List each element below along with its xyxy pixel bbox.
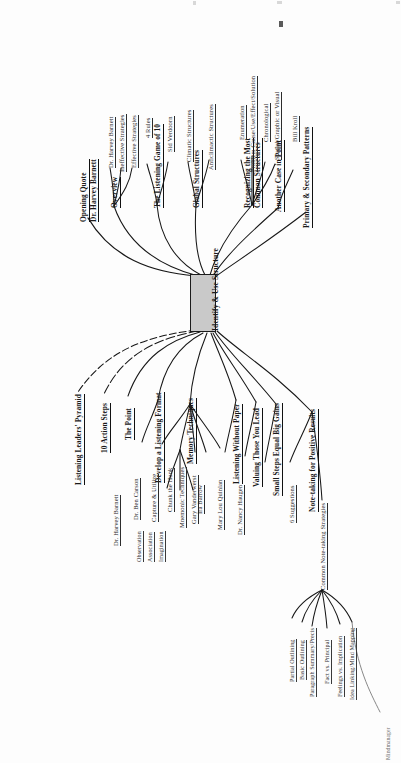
child-global-anticlimactic-structures[interactable]: Anticlimactic Structures: [207, 104, 216, 170]
branch-listening-leaders-pyramid[interactable]: Listening Leaders' Pyramid: [74, 394, 85, 485]
root-node-label: Identify & Use Structure: [211, 275, 220, 331]
child-memory-chunk-the-hunk[interactable]: Chunk the Hunk: [166, 468, 175, 512]
child-listening-game-sid-verdoorn[interactable]: Sid Verdoorn: [166, 116, 175, 152]
branch-note-taking-positive-results[interactable]: Note-taking for Positive Results: [308, 409, 319, 512]
child-develop-format-harvey-barnett[interactable]: Dr. Harvey Barnett: [112, 495, 121, 546]
child-listening-without-paper-ira-barrow[interactable]: Ira Barrow: [196, 485, 205, 514]
scan-artifact: [277, 1, 282, 4]
child-small-steps-nancy-haugen[interactable]: Dr. Nancy Haugen: [236, 485, 245, 535]
child-strategy-partial-outlining[interactable]: Partial Outlining: [289, 640, 297, 683]
child-strategy-feelings-vs-implication[interactable]: Feelings vs. Implication: [337, 636, 345, 697]
branch-primary-secondary-patterns[interactable]: Primary & Secondary Patterns: [302, 127, 313, 228]
child-strategy-idea-linking-mind-mapping[interactable]: Idea Linking/Mind Mapping: [349, 628, 357, 700]
branch-memory-techniques[interactable]: Memory Techniques: [186, 398, 197, 464]
mindmanager-brand-label: Mindmanager: [385, 728, 391, 760]
root-node[interactable]: Identify & Use Structure: [190, 274, 216, 332]
child-capture-observation[interactable]: Observation: [136, 531, 144, 562]
branch-develop-listening-format[interactable]: Develop a Listening Format: [154, 392, 165, 483]
child-strategy-fact-vs-principal[interactable]: Fact vs. Principal: [324, 640, 332, 684]
child-recognizing-chronological[interactable]: Chronological: [262, 104, 271, 143]
child-recognizing-problem-cause[interactable]: Problem Cause/Use/Effect/Solution: [249, 76, 258, 172]
child-global-climatic-structures[interactable]: Climatic Structures: [185, 110, 194, 162]
branch-listening-without-paper[interactable]: Listening Without Paper: [232, 404, 243, 484]
branch-listening-game[interactable]: The Listening Game of 10: [153, 124, 164, 208]
root-label-line1: Identify &: [211, 296, 220, 331]
branch-small-steps-big-gains[interactable]: Small Steps Equal Big Gains: [272, 403, 283, 496]
child-strategy-basic-outlining[interactable]: Basic Outlining: [299, 640, 307, 680]
scan-artifact: [193, 1, 196, 5]
root-label-line2: Use Structure: [211, 248, 220, 294]
child-recognizing-enumeration[interactable]: Enumeration: [238, 105, 247, 140]
child-memory-ben-carson[interactable]: Dr. Ben Carson: [132, 478, 141, 520]
child-note-taking-6-suggestions[interactable]: 6 Suggestions: [288, 485, 297, 523]
child-memory-capture-utilize[interactable]: Capture & Utilize: [150, 474, 159, 522]
mindmap-canvas: Identify & Use Structure Opening Quote D…: [0, 0, 401, 763]
branch-the-point[interactable]: The Point: [124, 408, 135, 440]
child-capture-association[interactable]: Association: [147, 532, 155, 562]
branch-overview[interactable]: Overview: [110, 177, 121, 208]
branch-valuing-those-you-lead[interactable]: Valuing Those You Lead: [252, 408, 263, 487]
child-memory-mnemonic-techniques[interactable]: Mnemonic Techniques: [178, 467, 187, 528]
child-overview-harvey-barnett[interactable]: Dr. Harvey Barnett: [107, 117, 116, 168]
child-strategy-paragraph-summary[interactable]: Paragraph Summary/Precis: [309, 628, 317, 697]
branch-opening-quote[interactable]: Opening Quote Dr. Harvey Barnett: [80, 159, 100, 222]
child-another-case-bill-kroll[interactable]: Bill Kroll: [291, 116, 300, 142]
scan-artifact: [396, 1, 400, 4]
branch-ten-action-steps[interactable]: 10 Action Steps: [100, 403, 111, 453]
child-note-taking-common-strategies[interactable]: Common Note-taking Strategies: [319, 503, 328, 590]
branch-opening-quote-line2: Dr. Harvey Barnett: [90, 159, 100, 222]
child-listening-game-4-rules[interactable]: 4 Rules: [144, 118, 153, 138]
child-valuing-mary-lou-quinlan[interactable]: Mary Lou Quinlan: [216, 480, 225, 530]
child-overview-ineffective-strategies[interactable]: Ineffective Strategies: [118, 115, 127, 173]
scan-artifact: [279, 21, 283, 27]
child-capture-imagination[interactable]: Imagination: [158, 531, 166, 562]
child-recognizing-spatial-graphic[interactable]: Spatial/Graphic or Visual: [273, 92, 282, 160]
child-overview-effective-strategies[interactable]: Effective Strategies: [130, 115, 139, 168]
